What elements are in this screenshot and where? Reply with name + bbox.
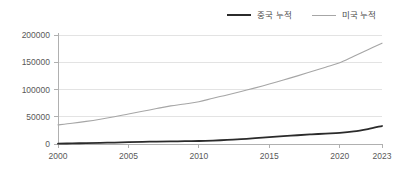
- gridlines: [58, 35, 382, 117]
- y-tick-label: 50000: [26, 112, 50, 121]
- x-tick-label: 2015: [260, 152, 279, 161]
- series-line-usa: [58, 43, 382, 125]
- y-tick-label: 150000: [22, 58, 50, 67]
- y-tick-label: 200000: [22, 31, 50, 40]
- tick-marks: [54, 35, 382, 148]
- series-lines: [58, 43, 382, 143]
- line-chart: 중국 누적 미국 누적 050000100000150000200000 200…: [0, 0, 398, 174]
- axis-lines: [58, 33, 382, 144]
- y-tick-label: 0: [45, 140, 50, 149]
- plot-area: 050000100000150000200000 200020052010201…: [0, 0, 398, 174]
- x-tick-label: 2005: [119, 152, 138, 161]
- x-tick-label: 2010: [189, 152, 208, 161]
- x-tick-label: 2000: [49, 152, 68, 161]
- x-tick-label: 2020: [330, 152, 349, 161]
- series-line-china: [58, 126, 382, 144]
- x-tick-label: 2023: [373, 152, 392, 161]
- y-tick-label: 100000: [22, 85, 50, 94]
- plot-canvas: [0, 0, 398, 174]
